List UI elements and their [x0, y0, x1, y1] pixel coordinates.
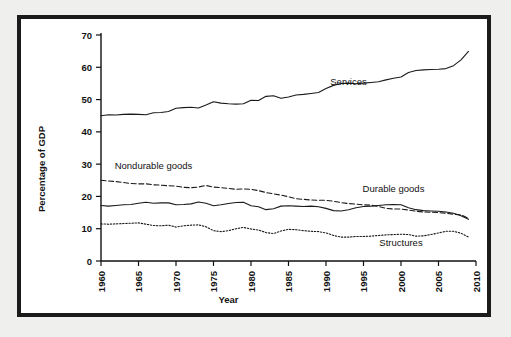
- figure-background: 010203040506070 196019651970197519801985…: [0, 0, 511, 337]
- x-axis-tick-label: 2010: [471, 271, 482, 292]
- y-axis-title: Percentage of GDP: [36, 125, 47, 212]
- y-axis-tick-label: 60: [81, 62, 92, 73]
- line-chart: 010203040506070 196019651970197519801985…: [21, 19, 487, 313]
- chart-frame: 010203040506070 196019651970197519801985…: [17, 15, 491, 317]
- y-axis-tick-label: 20: [81, 191, 92, 202]
- x-axis-tick-label: 1990: [321, 271, 332, 292]
- x-axis-tick-label: 2005: [433, 270, 444, 292]
- y-axis-tick-label: 30: [81, 159, 92, 170]
- x-axis-tick-label: 1985: [283, 270, 294, 292]
- series-label-services: Services: [330, 76, 367, 87]
- series-label-nondurable-goods: Nondurable goods: [115, 160, 193, 171]
- y-axis-tick-label: 40: [81, 126, 92, 137]
- x-axis-tick-label: 1965: [133, 270, 144, 292]
- x-axis-tick-label: 1960: [96, 271, 107, 292]
- y-axis-tick-label: 70: [81, 30, 92, 41]
- x-axis-tick-label: 2000: [396, 271, 407, 292]
- series-label-durable-goods: Durable goods: [363, 183, 425, 194]
- y-axis-tick-label: 50: [81, 94, 92, 105]
- x-axis-tick-label: 1975: [208, 270, 219, 292]
- y-axis-tick-label: 0: [87, 256, 92, 267]
- x-axis-tick-label: 1980: [246, 271, 257, 292]
- x-axis-tick-label: 1995: [358, 270, 369, 292]
- x-axis-title: Year: [218, 294, 238, 305]
- x-axis-tick-label: 1970: [171, 271, 182, 292]
- y-axis-tick-label: 10: [81, 223, 92, 234]
- series-label-structures: Structures: [379, 237, 423, 248]
